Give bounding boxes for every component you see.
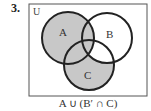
set-expression-caption: A ∪ (B′ ∩ C) (0, 97, 151, 110)
universe-label: U (33, 6, 41, 17)
venn-diagram: U A B C (0, 0, 151, 111)
label-b: B (106, 28, 113, 40)
label-a: A (59, 26, 67, 38)
label-c: C (84, 69, 91, 81)
